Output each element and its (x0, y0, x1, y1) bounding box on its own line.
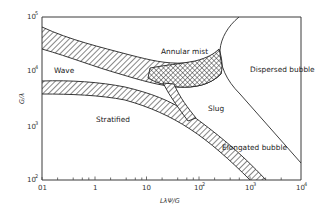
x-axis-title: LλΨ/G (160, 197, 180, 205)
region-label-elongated-bubble: Elongated bubble (222, 143, 287, 152)
y-tick-label-10000: 10 4 (27, 64, 38, 75)
region-label-dispersed-bubble: Dispersed bubble (250, 65, 315, 74)
y-tick-label-100000: 10 5 (27, 10, 38, 21)
y-tick-label-1000: 10 3 (27, 120, 38, 131)
plot-area (42, 17, 301, 180)
dispersed-bubble-boundary-arc (220, 17, 240, 94)
x-tick-label-0.1: 01 (38, 184, 47, 192)
dispersed-bubble-slug-line (240, 94, 301, 163)
svg-text:4: 4 (304, 181, 307, 187)
svg-text:2: 2 (35, 173, 38, 179)
region-label-wave: Wave (54, 66, 75, 75)
flow-regime-chart: Annular mist Wave Stratified Dispersed b… (0, 0, 322, 214)
region-label-slug: Slug (208, 104, 224, 113)
y-tick-label-100: 10 2 (27, 173, 38, 184)
x-tick-label-1000: 10 3 (245, 181, 256, 192)
x-tick-label-10000: 10 4 (296, 181, 307, 192)
svg-text:3: 3 (253, 181, 256, 187)
svg-text:4: 4 (35, 64, 38, 70)
x-ticks (42, 177, 281, 181)
svg-text:3: 3 (35, 120, 38, 126)
y-axis-title: G/λ (18, 93, 26, 104)
x-tick-label-10: 10 (142, 184, 151, 192)
x-tick-label-1: 1 (93, 184, 97, 192)
region-label-annular-mist: Annular mist (161, 47, 208, 56)
wave-stratified-transition-band (42, 81, 266, 180)
region-label-stratified: Stratified (96, 115, 130, 124)
x-tick-label-100: 10 2 (194, 181, 205, 192)
svg-text:5: 5 (35, 10, 38, 16)
svg-text:2: 2 (202, 181, 205, 187)
